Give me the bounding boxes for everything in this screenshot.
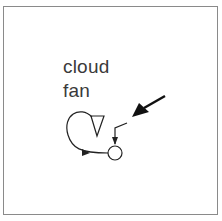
input-arrowhead-icon — [112, 137, 118, 145]
circle-node — [108, 146, 122, 160]
pointer-arrow-shaft — [144, 96, 165, 108]
pointer-arrowhead-icon — [132, 103, 149, 117]
loop-arrowhead-icon — [82, 149, 90, 156]
input-arrow — [115, 123, 127, 144]
cloud-fan-diagram — [0, 0, 222, 221]
triangle-icon — [91, 116, 104, 136]
